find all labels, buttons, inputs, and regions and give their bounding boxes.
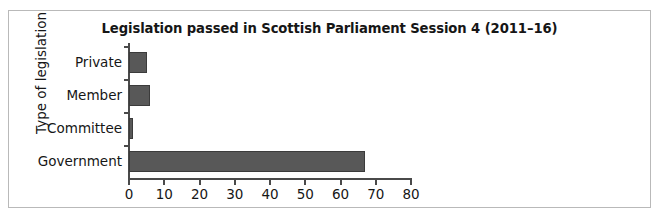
- bar[interactable]: [129, 151, 365, 172]
- x-axis-tick: [304, 180, 306, 185]
- x-axis-tick: [163, 180, 165, 185]
- y-axis-tick: [124, 79, 129, 81]
- bar-row: Committee: [129, 112, 411, 145]
- y-axis-tick: [124, 145, 129, 147]
- x-axis-tick: [375, 180, 377, 185]
- x-axis-tick-label: 80: [391, 186, 431, 202]
- x-axis-tick-label: 70: [356, 186, 396, 202]
- category-label: Committee: [47, 119, 122, 138]
- x-axis-tick-label: 50: [285, 186, 325, 202]
- x-axis-tick-label: 60: [321, 186, 361, 202]
- x-axis-tick-label: 30: [215, 186, 255, 202]
- x-axis-tick-label: 10: [144, 186, 184, 202]
- x-axis-tick: [269, 180, 271, 185]
- bar-row: Member: [129, 79, 411, 112]
- x-axis-tick-label: 40: [250, 186, 290, 202]
- bar-row: Private: [129, 46, 411, 79]
- x-axis-tick-label: 20: [180, 186, 220, 202]
- bar[interactable]: [129, 85, 150, 106]
- y-axis-tick: [124, 112, 129, 114]
- bar[interactable]: [129, 52, 147, 73]
- category-label: Member: [66, 86, 122, 105]
- plot-area: GovernmentCommitteeMemberPrivate 0102030…: [129, 46, 411, 178]
- bar[interactable]: [129, 118, 133, 139]
- x-axis-tick: [128, 180, 130, 185]
- x-axis-tick: [199, 180, 201, 185]
- x-axis-tick-label: 0: [109, 186, 149, 202]
- x-axis-tick: [410, 180, 412, 185]
- x-axis-tick: [340, 180, 342, 185]
- bar-row: Government: [129, 145, 411, 178]
- y-axis-tick: [124, 46, 129, 48]
- chart-title: Legislation passed in Scottish Parliamen…: [9, 21, 650, 36]
- x-axis-tick: [234, 180, 236, 185]
- category-label: Private: [75, 53, 122, 72]
- chart-figure-frame: Legislation passed in Scottish Parliamen…: [8, 10, 651, 208]
- category-label: Government: [38, 152, 122, 171]
